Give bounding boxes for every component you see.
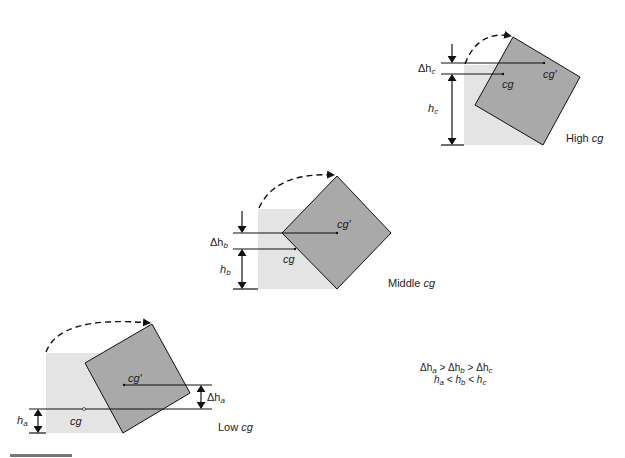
cg-label: cg [502, 78, 515, 90]
h-label: hc [428, 102, 438, 116]
cg-prime-point [123, 384, 125, 386]
caption: Middle cg [388, 277, 436, 289]
delta-h-label: Δha [207, 391, 225, 405]
high-cg-diagram: Δhc hc cg cg' High cg [418, 35, 604, 145]
footer-rule [10, 454, 72, 457]
cg-label: cg [70, 415, 83, 427]
h-relation: ha < hb < hc [434, 374, 486, 387]
delta-h-label: Δhb [210, 236, 228, 250]
cg-prime-point [543, 62, 545, 64]
cg-prime-label: cg' [337, 218, 352, 230]
relations-block: Δha > Δhb > Δhc ha < hb < hc [420, 362, 492, 387]
caption: High cg [566, 132, 604, 144]
cg-prime-label: cg' [128, 372, 143, 384]
cg-prime-label: cg' [543, 68, 558, 80]
delta-h-label: Δhc [418, 62, 435, 76]
middle-cg-diagram: Δhb hb cg cg' Middle cg [210, 175, 436, 289]
low-cg-diagram: Δha ha cg cg' Low cg [17, 322, 254, 433]
cg-stability-diagram: Δhc hc cg cg' High cg Δhb hb cg cg' Midd… [0, 0, 625, 458]
h-label: hb [220, 263, 231, 277]
diagram-canvas: Δhc hc cg cg' High cg Δhb hb cg cg' Midd… [0, 0, 625, 458]
h-label: ha [17, 414, 28, 428]
cg-point [83, 408, 86, 411]
cg-point [294, 248, 296, 250]
cg-label: cg [283, 253, 296, 265]
caption: Low cg [218, 421, 254, 433]
cg-point [502, 73, 504, 75]
cg-prime-point [336, 232, 338, 234]
